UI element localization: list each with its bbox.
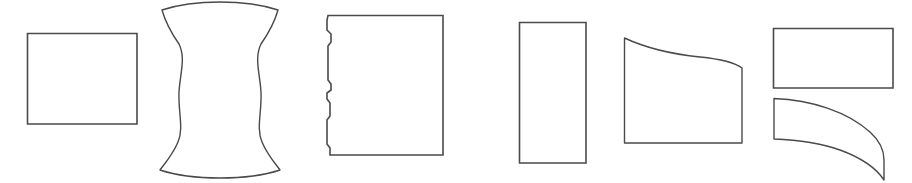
shape-canvas	[0, 0, 912, 183]
shape-figure	[0, 0, 912, 183]
shape-plain-rectangle	[28, 34, 138, 125]
shape-tall-narrow-rectangle	[520, 23, 587, 164]
shape-jagged-left-edge-rectangle	[327, 16, 443, 156]
shape-wide-flat-rectangle	[774, 29, 894, 89]
